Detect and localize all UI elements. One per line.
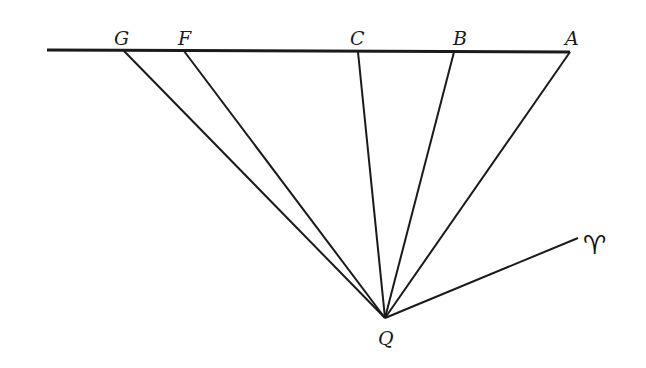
geometric-diagram: G F C B A Q ♈ [0, 0, 646, 368]
aries-symbol-icon: ♈ [583, 230, 606, 260]
line-B-Q [385, 52, 454, 318]
point-label-G: G [114, 27, 129, 49]
point-label-C: C [350, 27, 365, 49]
line-C-Q [358, 52, 385, 318]
point-label-B: B [452, 27, 467, 49]
point-label-Q: Q [378, 327, 394, 349]
point-label-F: F [177, 27, 192, 49]
line-G-Q [124, 51, 385, 318]
line-A-Q [385, 52, 570, 318]
point-label-A: A [563, 27, 579, 49]
line-F-Q [184, 51, 385, 318]
